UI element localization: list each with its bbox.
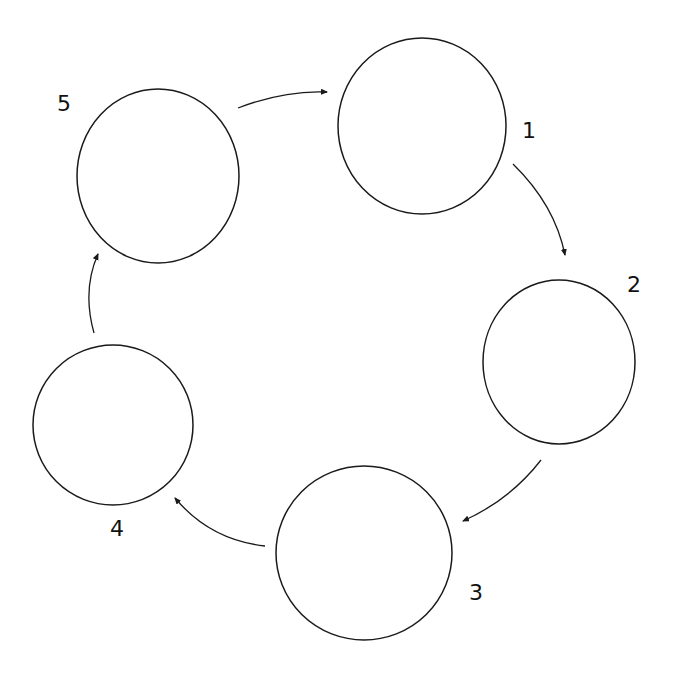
node-label-2: 2 bbox=[627, 272, 641, 297]
node-label-3: 3 bbox=[469, 580, 483, 605]
node-label-5: 5 bbox=[57, 91, 71, 116]
node-label-4: 4 bbox=[110, 516, 124, 541]
arrow-4-to-5 bbox=[89, 254, 98, 333]
arrow-1-to-2 bbox=[513, 164, 565, 255]
arrow-2-to-3 bbox=[463, 460, 541, 521]
nodes-group: 12345 bbox=[33, 38, 641, 640]
arrow-3-to-4 bbox=[175, 498, 265, 546]
node-circle-2 bbox=[483, 280, 635, 444]
node-circle-4 bbox=[33, 345, 193, 505]
arrow-5-to-1 bbox=[238, 92, 327, 108]
node-circle-1 bbox=[338, 38, 506, 214]
cycle-diagram: 12345 bbox=[0, 0, 675, 674]
node-circle-3 bbox=[276, 466, 452, 640]
node-label-1: 1 bbox=[522, 118, 536, 143]
node-circle-5 bbox=[77, 89, 239, 263]
